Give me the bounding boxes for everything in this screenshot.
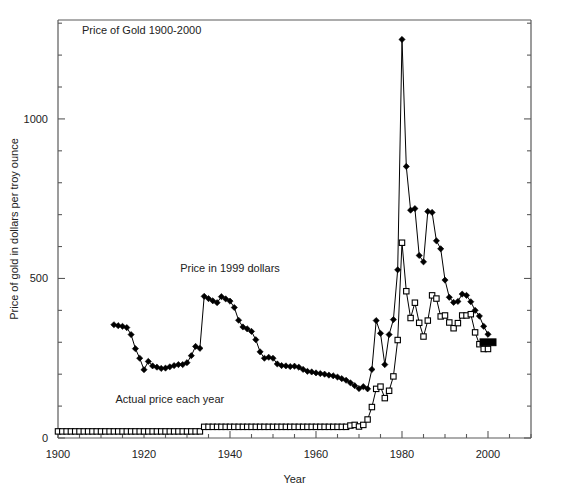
chart-title: Price of Gold 1900-2000 bbox=[82, 24, 201, 36]
data-point-marker bbox=[468, 299, 474, 305]
data-point-marker bbox=[386, 388, 391, 393]
data-point-marker bbox=[395, 267, 401, 273]
data-point-marker bbox=[390, 317, 396, 323]
series-annotation-0: Price in 1999 dollars bbox=[180, 262, 280, 274]
data-point-marker bbox=[373, 317, 379, 323]
data-point-marker bbox=[377, 330, 383, 336]
data-point-marker bbox=[231, 304, 237, 310]
x-tick-label: 1900 bbox=[46, 448, 70, 460]
data-point-marker bbox=[132, 346, 138, 352]
data-point-marker bbox=[404, 289, 409, 294]
data-point-marker bbox=[382, 362, 388, 368]
data-point-marker bbox=[416, 252, 422, 258]
data-point-marker bbox=[455, 320, 460, 325]
x-tick-label: 1940 bbox=[218, 448, 242, 460]
data-point-marker bbox=[472, 330, 477, 335]
y-tick-label: 500 bbox=[30, 272, 48, 284]
data-point-marker bbox=[399, 240, 404, 245]
data-point-marker bbox=[417, 320, 422, 325]
data-point-marker bbox=[395, 337, 400, 342]
data-point-marker bbox=[382, 395, 387, 400]
data-point-marker bbox=[253, 337, 259, 343]
data-point-marker bbox=[188, 353, 194, 359]
data-point-marker bbox=[236, 317, 242, 323]
data-point-marker bbox=[468, 311, 473, 316]
data-point-marker bbox=[442, 277, 448, 283]
data-point-marker bbox=[399, 36, 405, 42]
chart-canvas: 05001000190019201940196019802000YearPric… bbox=[0, 0, 566, 495]
y-tick-label: 0 bbox=[42, 432, 48, 444]
y-tick-label: 1000 bbox=[24, 113, 48, 125]
x-tick-label: 1920 bbox=[132, 448, 156, 460]
data-point-marker bbox=[369, 404, 374, 409]
data-point-marker bbox=[403, 163, 409, 169]
data-point-marker bbox=[481, 323, 487, 329]
end-point-marker bbox=[480, 339, 496, 346]
data-point-marker bbox=[378, 384, 383, 389]
x-axis-title: Year bbox=[283, 473, 306, 485]
data-point-marker bbox=[369, 366, 375, 372]
data-point-marker bbox=[485, 346, 490, 351]
series-annotation-1: Actual price each year bbox=[115, 393, 224, 405]
data-point-marker bbox=[434, 296, 439, 301]
data-point-marker bbox=[425, 318, 430, 323]
x-tick-label: 1980 bbox=[390, 448, 414, 460]
x-tick-label: 1960 bbox=[304, 448, 328, 460]
data-point-marker bbox=[391, 374, 396, 379]
data-point-marker bbox=[128, 332, 134, 338]
data-point-marker bbox=[485, 331, 491, 337]
data-point-marker bbox=[433, 238, 439, 244]
data-point-marker bbox=[412, 300, 417, 305]
data-point-marker bbox=[365, 417, 370, 422]
data-point-marker bbox=[386, 332, 392, 338]
y-axis-title: Price of gold in dollars per troy ounce bbox=[8, 138, 20, 320]
data-point-marker bbox=[447, 320, 452, 325]
data-point-marker bbox=[421, 334, 426, 339]
data-point-marker bbox=[442, 313, 447, 318]
data-point-marker bbox=[137, 355, 143, 361]
data-point-marker bbox=[438, 246, 444, 252]
x-tick-label: 2000 bbox=[476, 448, 500, 460]
gold-price-chart-figure: 05001000190019201940196019802000YearPric… bbox=[0, 0, 566, 495]
data-point-marker bbox=[257, 349, 263, 355]
data-point-marker bbox=[408, 315, 413, 320]
data-point-marker bbox=[141, 367, 147, 373]
data-point-marker bbox=[420, 259, 426, 265]
data-point-marker bbox=[361, 422, 366, 427]
